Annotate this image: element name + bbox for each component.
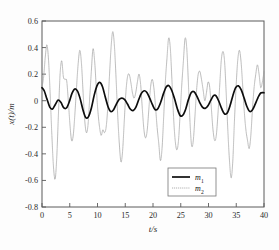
y-axis-title: x(t)/m	[6, 103, 16, 126]
x-tick-label: 40	[260, 211, 268, 220]
x-tick-label: 10	[93, 211, 101, 220]
figure-container: -0.8-0.6-0.4-0.200.20.40.6 0510152025303…	[0, 0, 279, 250]
x-tick-label: 0	[40, 211, 44, 220]
x-tick-label: 35	[232, 211, 240, 220]
x-tick-label: 25	[177, 211, 185, 220]
y-tick-label: 0.6	[28, 17, 38, 26]
line-chart: -0.8-0.6-0.4-0.200.20.40.6 0510152025303…	[0, 0, 279, 250]
y-tick-label: 0	[34, 97, 38, 106]
y-tick-label: -0.6	[25, 176, 38, 185]
y-tick-label: 0.4	[28, 44, 38, 53]
x-tick-label: 20	[149, 211, 157, 220]
y-tick-label: 0.2	[28, 70, 38, 79]
plot-frame	[42, 21, 264, 207]
y-tick-label: -0.2	[25, 123, 38, 132]
y-tick-label: -0.4	[25, 150, 38, 159]
x-tick-label: 30	[204, 211, 212, 220]
legend[interactable]: m 1 m 2	[168, 168, 216, 196]
x-tick-label: 5	[68, 211, 72, 220]
legend-box	[168, 168, 216, 196]
x-tick-label: 15	[121, 211, 129, 220]
y-tick-label: -0.8	[25, 203, 38, 212]
legend-label-m2-subscript: 2	[201, 189, 204, 195]
x-axis-title: t/s	[149, 224, 158, 234]
legend-label-m1-subscript: 1	[201, 178, 204, 184]
